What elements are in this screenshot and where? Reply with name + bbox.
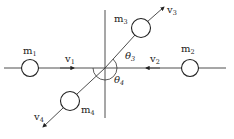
v4-arrow [43,108,63,127]
collision-diagram: m1 v1 m2 v2 m3 v3 m4 v4 θ3 θ4 [0,0,234,139]
theta4-label: θ4 [114,74,124,87]
v4-label: v4 [33,111,44,124]
m1-label: m1 [23,45,37,58]
theta3-label: θ3 [125,50,135,63]
theta3-arc [113,59,117,68]
m4-label: m4 [81,104,95,117]
mass-m4-ball [61,92,80,111]
v3-arrow [147,7,164,22]
m2-label: m2 [181,43,195,56]
trajectory-m4 [77,68,105,94]
m3-label: m3 [114,13,128,26]
mass-m3-ball [132,19,151,38]
v1-label: v1 [64,53,75,66]
v3-label: v3 [166,4,177,17]
mass-m2-ball [182,60,199,77]
mass-m1-ball [22,60,39,77]
v2-label: v2 [149,53,160,66]
